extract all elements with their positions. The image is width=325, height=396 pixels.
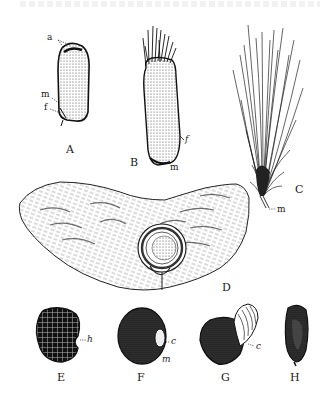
panel-e-seed bbox=[36, 308, 86, 362]
annotation-f-panel-a: f bbox=[44, 103, 47, 112]
panel-g-seed bbox=[200, 304, 258, 364]
annotation-m-panel-a: m bbox=[41, 90, 50, 99]
annotation-c-panel-g: c bbox=[256, 342, 261, 351]
panel-label-c: C bbox=[295, 184, 303, 195]
panel-b-seed-with-coma bbox=[143, 26, 184, 165]
annotation-m-panel-f: m bbox=[162, 355, 171, 364]
botanical-illustration bbox=[0, 0, 325, 396]
panel-label-b: B bbox=[130, 157, 138, 168]
panel-a-seed bbox=[50, 40, 89, 126]
panel-label-f: F bbox=[137, 372, 145, 383]
annotation-m-panel-c: m bbox=[277, 205, 286, 214]
panel-label-a: A bbox=[66, 144, 74, 155]
annotation-m-panel-b: m bbox=[170, 163, 179, 172]
panel-d-winged-seed bbox=[19, 182, 249, 290]
panel-label-e: E bbox=[57, 372, 65, 383]
panel-label-g: G bbox=[221, 372, 230, 383]
annotation-h-panel-e: h bbox=[87, 335, 93, 344]
annotation-a-panel-a: a bbox=[47, 33, 52, 42]
annotation-c-panel-f: c bbox=[171, 337, 176, 346]
panel-h-seed bbox=[285, 305, 308, 366]
annotation-f-panel-b: f bbox=[185, 135, 188, 144]
panel-label-d: D bbox=[222, 282, 231, 293]
panel-label-h: H bbox=[290, 372, 300, 383]
